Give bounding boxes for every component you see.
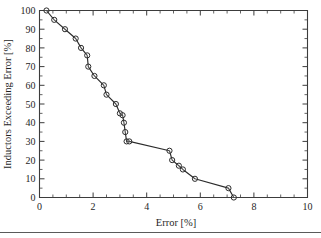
data-point-marker <box>44 8 49 13</box>
x-tick-label: 4 <box>144 201 149 212</box>
y-tick-label: 20 <box>26 155 36 166</box>
data-point-marker <box>52 17 57 22</box>
x-tick-label: 8 <box>251 201 256 212</box>
y-tick-label: 60 <box>26 80 36 91</box>
cumulative-error-plot: 0246810 0102030405060708090100 Error [%]… <box>0 0 321 238</box>
data-point-marker <box>73 36 78 41</box>
data-point-marker <box>226 186 231 191</box>
y-axis-title: Inductors Exceeding Error [%] <box>2 39 13 169</box>
y-tick-label: 40 <box>26 117 36 128</box>
data-point-marker <box>101 83 106 88</box>
y-tick-label: 100 <box>21 5 36 16</box>
data-point-marker <box>113 101 118 106</box>
data-point-marker <box>121 120 126 125</box>
chart-figure: 0246810 0102030405060708090100 Error [%]… <box>0 0 321 238</box>
data-point-marker <box>120 113 125 118</box>
plot-background <box>0 0 321 238</box>
x-tick-label: 0 <box>37 201 42 212</box>
y-tick-label: 10 <box>26 173 36 184</box>
data-point-marker <box>192 176 197 181</box>
y-tick-label: 80 <box>26 43 36 54</box>
y-tick-label: 70 <box>26 61 36 72</box>
data-point-marker <box>92 73 97 78</box>
x-tick-label: 10 <box>303 201 313 212</box>
data-point-marker <box>180 167 185 172</box>
data-point-marker <box>231 195 236 200</box>
y-tick-label: 50 <box>26 99 36 110</box>
y-tick-label: 0 <box>31 192 36 203</box>
data-point-marker <box>86 64 91 69</box>
x-tick-label: 6 <box>198 201 203 212</box>
data-point-marker <box>78 45 83 50</box>
data-point-marker <box>127 139 132 144</box>
x-tick-label: 2 <box>91 201 96 212</box>
y-tick-label: 90 <box>26 24 36 35</box>
y-tick-label: 30 <box>26 136 36 147</box>
data-point-marker <box>123 129 128 134</box>
data-point-marker <box>104 92 109 97</box>
x-axis-title: Error [%] <box>156 217 197 228</box>
data-point-marker <box>85 53 90 58</box>
data-point-marker <box>62 27 67 32</box>
data-point-marker <box>167 148 172 153</box>
data-point-marker <box>170 158 175 163</box>
footer-divider-rule <box>0 232 321 233</box>
